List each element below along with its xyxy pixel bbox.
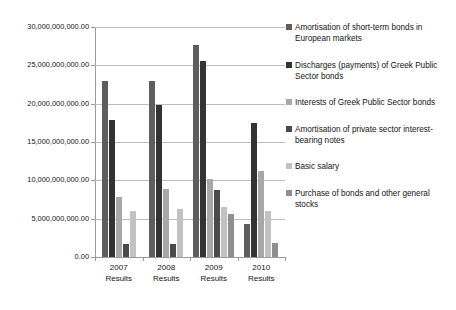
bar <box>163 189 169 257</box>
legend-label: Discharges (payments) of Greek Public Se… <box>295 60 454 82</box>
category-label-line: 2007 <box>95 262 143 273</box>
x-axis-category-label: 2010Results <box>238 262 286 284</box>
y-axis-label: 20,000,000,000.00 <box>27 100 89 107</box>
y-axis-label: 25,000,000,000.00 <box>27 62 89 69</box>
legend-label: Purchase of bonds and other general stoc… <box>295 188 454 210</box>
legend-swatch-icon <box>286 99 292 105</box>
category-label-line: Results <box>143 273 191 284</box>
x-axis-tick <box>95 257 96 261</box>
bar <box>221 207 227 257</box>
x-axis-tick <box>143 257 144 261</box>
category-label-line: Results <box>190 273 238 284</box>
category-label-line: Results <box>238 273 286 284</box>
legend-label: Amortisation of private sector interest-… <box>295 124 454 146</box>
y-axis-label: 5,000,000,000.00 <box>31 215 89 222</box>
legend-label: Amortisation of short-term bonds in Euro… <box>295 22 454 44</box>
category-label-line: 2009 <box>190 262 238 273</box>
bar-group <box>143 27 191 257</box>
legend-item[interactable]: Basic salary <box>286 161 454 172</box>
y-axis-label: 15,000,000,000.00 <box>27 138 89 145</box>
bar-group <box>95 27 143 257</box>
bar <box>123 244 129 257</box>
legend-label: Interests of Greek Public Sector bonds <box>295 97 435 108</box>
bar <box>207 179 213 257</box>
bar <box>200 61 206 257</box>
legend-swatch-icon <box>286 190 292 196</box>
bar <box>156 105 162 257</box>
bar-group <box>190 27 238 257</box>
x-axis-category-label: 2009Results <box>190 262 238 284</box>
bar <box>130 211 136 257</box>
legend-swatch-icon <box>286 163 292 169</box>
bar <box>177 209 183 257</box>
legend-item[interactable]: Purchase of bonds and other general stoc… <box>286 188 454 210</box>
legend-item[interactable]: Discharges (payments) of Greek Public Se… <box>286 60 454 82</box>
bar <box>109 120 115 257</box>
bar-group <box>238 27 286 257</box>
legend-item[interactable]: Amortisation of short-term bonds in Euro… <box>286 22 454 44</box>
bar <box>214 190 220 257</box>
bar <box>170 244 176 257</box>
x-axis-tick <box>238 257 239 261</box>
legend-swatch-icon <box>286 126 292 132</box>
x-axis-category-label: 2008Results <box>143 262 191 284</box>
bar <box>149 81 155 257</box>
bar <box>116 197 122 257</box>
category-label-line: 2010 <box>238 262 286 273</box>
bar <box>228 214 234 257</box>
x-axis-category-label: 2007Results <box>95 262 143 284</box>
x-axis-tick <box>190 257 191 261</box>
legend-item[interactable]: Amortisation of private sector interest-… <box>286 124 454 146</box>
legend-swatch-icon <box>286 24 292 30</box>
plot-area: 0.005,000,000,000.0010,000,000,000.0015,… <box>95 27 285 257</box>
y-axis-label: 10,000,000,000.00 <box>27 177 89 184</box>
bar <box>258 171 264 257</box>
bar <box>265 211 271 257</box>
y-axis-label: 30,000,000,000.00 <box>27 23 89 30</box>
category-label-line: Results <box>95 273 143 284</box>
bar <box>193 45 199 257</box>
legend-swatch-icon <box>286 62 292 68</box>
bar-chart: 0.005,000,000,000.0010,000,000,000.0015,… <box>0 0 456 310</box>
category-label-line: 2008 <box>143 262 191 273</box>
legend-item[interactable]: Interests of Greek Public Sector bonds <box>286 97 454 108</box>
bar <box>102 81 108 257</box>
bar <box>244 224 250 257</box>
legend-label: Basic salary <box>295 161 339 172</box>
x-axis-tick <box>285 257 286 261</box>
chart-legend: Amortisation of short-term bonds in Euro… <box>286 22 454 225</box>
bar <box>272 243 278 257</box>
y-axis-label: 0.00 <box>75 253 89 260</box>
bar <box>251 123 257 257</box>
